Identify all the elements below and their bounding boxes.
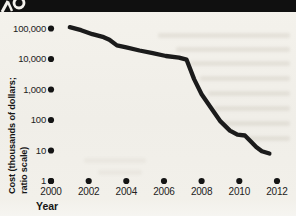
x-tick-label: 2004 (106, 186, 146, 197)
chart-labels-layer: Cost (thousands of dollars; ratio scale)… (0, 0, 296, 216)
x-tick-label: 2010 (219, 186, 259, 197)
x-tick-label: 2008 (182, 186, 222, 197)
x-tick-label: 2006 (144, 186, 184, 197)
cropped-white-glyph (0, 0, 34, 12)
y-tick-label: 100,000 (0, 23, 46, 35)
x-tick-label: 2002 (69, 186, 109, 197)
y-axis-title: Cost (thousands of dollars; ratio scale) (6, 54, 30, 194)
page-header-bar (0, 0, 296, 12)
x-axis-title: Year (36, 200, 58, 212)
x-tick-label: 2000 (31, 186, 71, 197)
x-tick-label: 2012 (257, 186, 296, 197)
